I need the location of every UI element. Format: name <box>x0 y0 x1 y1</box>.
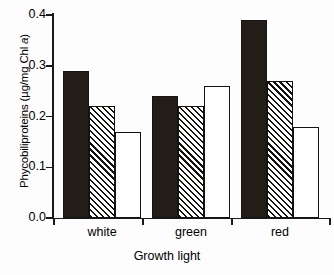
y-tick-0.2 <box>46 116 53 118</box>
bar-red-hatched <box>267 81 293 218</box>
bar-green-open-white <box>204 86 230 218</box>
bar-white-solid-black <box>63 71 89 218</box>
y-tick-label-0.2: 0.2 <box>6 110 46 123</box>
x-tick-1 <box>142 218 144 225</box>
x-tick-2 <box>231 218 233 225</box>
bar-white-hatched <box>89 106 115 218</box>
bar-green-solid-black <box>152 96 178 218</box>
y-tick-label-0.3: 0.3 <box>6 59 46 72</box>
bar-red-solid-black <box>241 20 267 218</box>
y-tick-0.1 <box>46 167 53 169</box>
bar-white-open-white <box>115 132 141 218</box>
x-group-label-white: white <box>62 226 142 239</box>
bar-red-open-white <box>293 127 319 218</box>
bar-green-hatched <box>178 106 204 218</box>
y-axis-title-italic-a: a <box>18 38 30 44</box>
y-tick-label-0.0: 0.0 <box>6 211 46 224</box>
x-group-label-red: red <box>240 226 320 239</box>
y-axis-title-tail: ) <box>18 34 30 38</box>
plot-area <box>53 15 330 218</box>
y-tick-0.3 <box>46 65 53 67</box>
bar-chart-figure: Phycobiliproteins (µg/mg Chl a) 0.00.10.… <box>0 0 334 275</box>
x-group-label-green: green <box>151 226 231 239</box>
x-axis-title: Growth light <box>0 249 334 263</box>
y-tick-label-0.4: 0.4 <box>6 8 46 21</box>
x-tick-3 <box>329 218 331 225</box>
y-tick-0.0 <box>46 217 53 219</box>
y-tick-label-0.1: 0.1 <box>6 160 46 173</box>
x-tick-0 <box>53 218 55 225</box>
y-tick-0.4 <box>46 14 53 16</box>
